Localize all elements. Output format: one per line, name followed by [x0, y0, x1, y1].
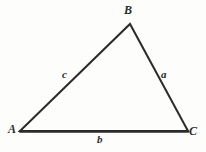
side-label-b: b [97, 134, 103, 145]
triangle-figure: A B C a b c [0, 0, 206, 152]
side-label-a: a [161, 69, 167, 80]
vertex-label-a: A [8, 123, 16, 135]
triangle-drawing [0, 0, 206, 152]
vertex-label-c: C [189, 125, 197, 137]
side-label-c: c [62, 69, 67, 80]
vertex-label-b: B [124, 4, 132, 16]
